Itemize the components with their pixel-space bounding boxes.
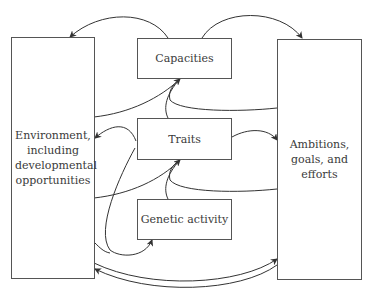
node-genetic-activity-label: Genetic activity [141, 212, 229, 227]
node-ambitions-label: Ambitions, goals, and efforts [289, 137, 351, 182]
edge-capacities-to-environment [70, 17, 168, 38]
edge-environment-to-capacities [94, 79, 180, 117]
node-traits-label: Traits [168, 132, 201, 147]
node-ambitions: Ambitions, goals, and efforts [277, 39, 362, 280]
node-capacities-label: Capacities [155, 51, 213, 66]
node-traits: Traits [137, 118, 232, 160]
edge-ambitions-to-capacities [169, 79, 277, 110]
edge-capacities-to-ambitions [202, 16, 302, 39]
node-environment-label: Environment, including developmental opp… [15, 128, 91, 188]
node-capacities: Capacities [137, 38, 232, 79]
node-environment: Environment, including developmental opp… [11, 37, 95, 279]
edge-environment-to-traits [94, 160, 180, 198]
edge-environment-to-ambitions [94, 259, 277, 281]
node-genetic-activity: Genetic activity [137, 199, 232, 240]
edge-traits-to-ambitions [232, 131, 277, 140]
edge-ambitions-to-traits [169, 160, 277, 191]
edge-ambitions-to-environment [95, 265, 277, 287]
edge-traits-to-environment [95, 127, 136, 141]
